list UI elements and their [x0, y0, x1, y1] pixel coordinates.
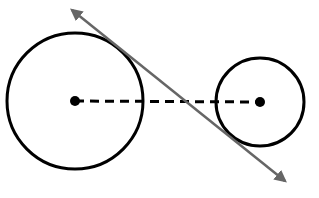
tangent-circles-diagram [0, 0, 319, 198]
large-center-dot [70, 96, 80, 106]
center-line [75, 101, 260, 102]
small-center-dot [255, 97, 265, 107]
tangent-line [72, 10, 285, 181]
